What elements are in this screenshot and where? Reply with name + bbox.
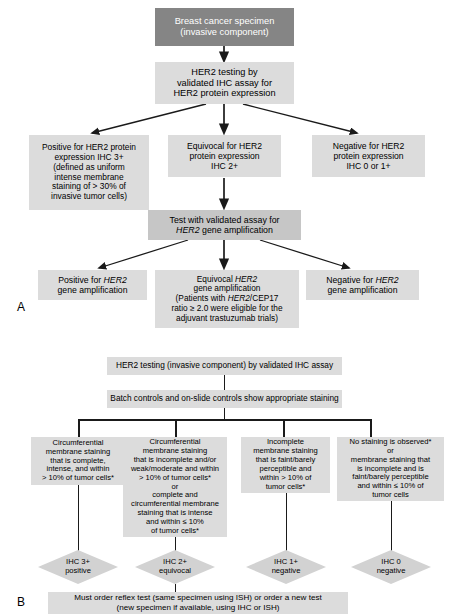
node-ihc-positive-3plus: Positive for HER2 protein expression IHC…: [29, 135, 149, 210]
node-ihc-equivocal-2plus: Equivocal for HER2 protein expression IH…: [168, 135, 281, 177]
connector-b-drop-3: [283, 419, 285, 437]
node-gene-equivocal: Equivocal HER2 gene amplification (Patie…: [155, 270, 299, 328]
gene-positive-line-1: Positive for HER2: [58, 275, 127, 285]
her2-italic: HER2: [376, 275, 399, 285]
connector-b-criteria1-to-result1: [78, 485, 80, 551]
gene-equivocal-patients: (Patients with: [176, 293, 228, 303]
connector-b-criteria4-to-result4: [391, 501, 393, 551]
her2-italic: HER2: [235, 274, 257, 284]
node-breast-cancer-specimen: Breast cancer specimen (invasive compone…: [155, 8, 294, 46]
gene-test-line-2: HER2 gene amplification: [176, 225, 273, 235]
her2-testing-algorithm-figure: Breast cancer specimen (invasive compone…: [0, 0, 449, 616]
gene-negative-line-2: gene amplification: [327, 285, 397, 295]
node-ihc-negative-0-1plus: Negative for HER2 protein expression IHC…: [312, 135, 425, 177]
node-b-criteria-ihc2: Circumferential membrane staining that i…: [123, 437, 227, 537]
her2-italic: HER2: [104, 275, 127, 285]
node-b-reflex-test: Must order reflex test (same specimen us…: [48, 592, 348, 614]
gene-negative-line-1: Negative for HER2: [326, 275, 398, 285]
node-gene-negative: Negative for HER2 gene amplification: [306, 270, 419, 300]
connector-b-criteria3-to-result3: [286, 493, 288, 551]
connector-b-drop-1: [78, 419, 80, 437]
node-b-criteria-ihc1: Incomplete membrane staining that is fai…: [241, 437, 330, 493]
gene-positive-prefix: Positive for: [58, 275, 103, 285]
gene-test-line-2-rest: gene amplification: [200, 225, 273, 235]
her2-italic: HER2: [176, 225, 199, 235]
node-b-criteria-ihc3: Circumferential membrane staining that i…: [31, 437, 125, 485]
connector-b-bus-horizontal: [78, 419, 371, 421]
connector-b-top: [224, 375, 226, 390]
node-b-criteria-ihc0: No staining is observed* or membrane sta…: [337, 437, 444, 501]
gene-test-line-1: Test with validated assay for: [169, 215, 279, 225]
connector-b-criteria2-to-result2: [175, 537, 177, 551]
gene-positive-line-2: gene amplification: [57, 285, 127, 295]
node-gene-positive: Positive for HER2 gene amplification: [38, 270, 147, 300]
cep17-label: /CEP17: [250, 293, 279, 303]
connector-b-drop-2: [175, 419, 177, 437]
panel-label-b: B: [17, 595, 25, 609]
node-her2-ihc-testing: HER2 testing by validated IHC assay for …: [155, 62, 294, 104]
gene-equivocal-prefix: Equivocal: [197, 274, 235, 284]
node-b-batch-controls: Batch controls and on-slide controls sho…: [107, 390, 342, 408]
connector-b-drop-4: [370, 419, 372, 437]
panel-label-a: A: [17, 300, 25, 314]
gene-negative-prefix: Negative for: [326, 275, 375, 285]
gene-equivocal-line-5: adjuvant trastuzumab trials): [176, 314, 278, 324]
node-gene-amplification-test: Test with validated assay for HER2 gene …: [148, 210, 301, 240]
her2-italic: HER2: [228, 293, 250, 303]
node-b-ihc-testing: HER2 testing (invasive component) by val…: [107, 357, 342, 375]
